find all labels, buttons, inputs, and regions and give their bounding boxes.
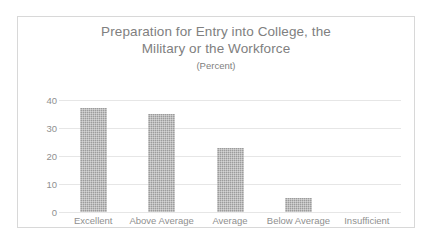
x-axis-tick-label-below-average: Below Average xyxy=(264,215,332,226)
plot-area xyxy=(59,100,401,212)
bar-below-average xyxy=(285,198,312,212)
bar-excellent xyxy=(80,108,107,212)
y-axis-tick-label: 20 xyxy=(35,151,57,162)
y-axis-tick-labels: 40 30 20 10 0 xyxy=(35,100,57,212)
chart-title-line-1: Preparation for Entry into College, the xyxy=(101,24,331,39)
bar-slot-excellent xyxy=(59,100,127,212)
chart-title-block: Preparation for Entry into College, the … xyxy=(18,23,414,72)
chart-title-line-2: Military or the Workforce xyxy=(142,41,291,56)
x-axis-tick-label-insufficient: Insufficient xyxy=(333,215,401,226)
scan-top-edge-artifact: · · · · xyxy=(0,0,432,9)
chart-title: Preparation for Entry into College, the … xyxy=(18,23,414,57)
gridline-axis-baseline xyxy=(59,212,401,213)
bar-slot-average xyxy=(196,100,264,212)
x-axis-tick-label-excellent: Excellent xyxy=(59,215,127,226)
chart-container: Preparation for Entry into College, the … xyxy=(17,16,415,228)
x-axis-tick-label-average: Average xyxy=(196,215,264,226)
x-axis-tick-label-above-average: Above Average xyxy=(127,215,195,226)
y-axis-tick-label: 40 xyxy=(35,95,57,106)
bar-slot-below-average xyxy=(264,100,332,212)
bar-series xyxy=(59,100,401,212)
bar-slot-above-average xyxy=(127,100,195,212)
y-axis-tick-label: 30 xyxy=(35,123,57,134)
scan-top-edge-text: · · · · xyxy=(8,0,70,3)
x-axis-tick-labels: Excellent Above Average Average Below Av… xyxy=(59,215,401,226)
y-axis-tick-label: 10 xyxy=(35,179,57,190)
bar-slot-insufficient xyxy=(333,100,401,212)
y-axis-tick-label: 0 xyxy=(35,207,57,218)
bar-average xyxy=(217,148,244,212)
chart-subtitle: (Percent) xyxy=(18,59,414,72)
bar-above-average xyxy=(148,114,175,212)
